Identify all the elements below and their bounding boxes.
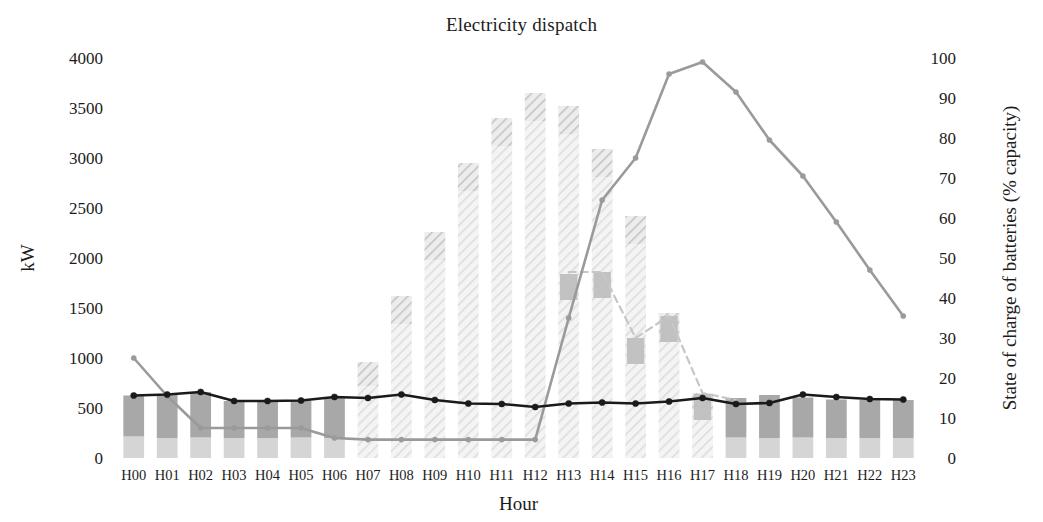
pv-generation-bar-cap bbox=[592, 149, 613, 177]
state-of-charge-point bbox=[901, 313, 906, 318]
bottom-axis-tick-label: H11 bbox=[490, 467, 514, 483]
bottom-axis-tick-label: H18 bbox=[723, 467, 748, 483]
bottom-axis-tick-label: H02 bbox=[188, 467, 213, 483]
electricity-demand-point bbox=[465, 400, 471, 406]
dispatchable-generation-bar-segment bbox=[257, 401, 278, 438]
right-axis-tick-label: 20 bbox=[939, 369, 956, 388]
electricity-demand-point bbox=[131, 392, 137, 398]
bottom-axis-tick-label: H06 bbox=[322, 467, 347, 483]
dispatchable-generation-bar-segment bbox=[859, 400, 880, 438]
grid-import-bar-segment bbox=[257, 438, 278, 458]
bottom-axis-tick-label: H05 bbox=[289, 467, 314, 483]
left-axis-tick-label: 1500 bbox=[69, 299, 103, 318]
right-axis-tick-label: 70 bbox=[939, 169, 956, 188]
dispatchable-generation-bar-segment bbox=[224, 401, 245, 438]
pv-generation-bar bbox=[491, 146, 512, 458]
grid-import-bar-segment bbox=[859, 438, 880, 458]
bottom-axis-tick-label: H23 bbox=[891, 467, 916, 483]
electricity-demand-point bbox=[900, 396, 906, 402]
electricity-demand-point bbox=[867, 396, 873, 402]
pv-generation-bar bbox=[424, 260, 445, 458]
electricity-demand-point bbox=[666, 398, 672, 404]
pv-generation-bar-cap bbox=[358, 362, 379, 386]
electricity-demand-point bbox=[198, 389, 204, 395]
left-axis-tick-label: 500 bbox=[78, 399, 104, 418]
bottom-axis-tick-label: H22 bbox=[857, 467, 882, 483]
electricity-demand-point bbox=[398, 391, 404, 397]
state-of-charge-point bbox=[566, 315, 571, 320]
dispatchable-generation-bar-segment bbox=[893, 400, 914, 438]
electricity-demand-point bbox=[432, 397, 438, 403]
bottom-axis-tick-label: H21 bbox=[824, 467, 849, 483]
left-axis-tick-label: 3000 bbox=[69, 149, 103, 168]
left-axis-tick-label: 2500 bbox=[69, 199, 103, 218]
state-of-charge-point bbox=[365, 437, 370, 442]
pv-generation-bar-cap bbox=[625, 216, 646, 244]
bottom-axis-tick-label: H10 bbox=[456, 467, 481, 483]
state-of-charge-point bbox=[666, 71, 671, 76]
pv-generation-bar-cap bbox=[424, 232, 445, 260]
pv-generation-bar-cap bbox=[558, 106, 579, 134]
grid-import-bar-segment bbox=[793, 438, 814, 459]
grid-import-bar-segment bbox=[893, 438, 914, 458]
left-axis-tick-label: 4000 bbox=[69, 49, 103, 68]
state-of-charge-line bbox=[131, 59, 906, 442]
electricity-dispatch-chart: 05001000150020002500300035004000 0102030… bbox=[0, 0, 1043, 522]
electricity-demand-point bbox=[833, 394, 839, 400]
electricity-demand-point bbox=[231, 398, 237, 404]
state-of-charge-point bbox=[466, 437, 471, 442]
bottom-axis-tick-label: H15 bbox=[623, 467, 648, 483]
state-of-charge-point bbox=[432, 437, 437, 442]
dispatchable-generation-bar-segment bbox=[324, 397, 345, 438]
state-of-charge-point bbox=[332, 435, 337, 440]
state-of-charge-path bbox=[134, 62, 904, 440]
grid-import-bar-segment bbox=[291, 438, 312, 459]
pv-generation-bar-cap bbox=[391, 296, 412, 324]
bars-layer bbox=[123, 93, 913, 458]
state-of-charge-point bbox=[767, 137, 772, 142]
grid-import-bar-segment bbox=[224, 438, 245, 458]
pv-generation-bar bbox=[592, 177, 613, 458]
pv-generation-bar-cap bbox=[458, 163, 479, 191]
state-of-charge-point bbox=[867, 267, 872, 272]
dispatchable-generation-bar-segment bbox=[123, 396, 144, 437]
state-of-charge-point bbox=[198, 425, 203, 430]
electricity-demand-line bbox=[131, 389, 907, 410]
grid-import-bar-segment bbox=[324, 438, 345, 458]
left-axis-tick-label: 1000 bbox=[69, 349, 103, 368]
bottom-axis-tick-label: H04 bbox=[255, 467, 281, 483]
state-of-charge-point bbox=[633, 155, 638, 160]
grid-import-bar-segment bbox=[190, 438, 211, 459]
grid-import-bar-segment bbox=[157, 438, 178, 458]
grid-import-bar-segment bbox=[759, 438, 780, 458]
bottom-axis-tick-label: H00 bbox=[121, 467, 146, 483]
bottom-axis-title: Hour bbox=[499, 493, 539, 514]
bottom-axis-tick-label: H20 bbox=[790, 467, 815, 483]
dispatchable-generation-bar-segment bbox=[291, 401, 312, 438]
right-axis-tick-label: 60 bbox=[939, 209, 956, 228]
electricity-demand-point bbox=[800, 391, 806, 397]
electricity-demand-point bbox=[331, 394, 337, 400]
electricity-demand-point bbox=[264, 398, 270, 404]
left-axis-tick-label: 2000 bbox=[69, 249, 103, 268]
state-of-charge-point bbox=[399, 437, 404, 442]
grid-import-bar-segment bbox=[826, 438, 847, 458]
battery-charge-bar-marker bbox=[627, 338, 644, 364]
right-axis-tick-label: 100 bbox=[931, 49, 957, 68]
bottom-axis-tick-label: H13 bbox=[556, 467, 581, 483]
bottom-axis-tick-label: H01 bbox=[155, 467, 180, 483]
electricity-demand-point bbox=[599, 399, 605, 405]
pv-generation-bar bbox=[458, 191, 479, 458]
electricity-demand-point bbox=[532, 404, 538, 410]
right-axis-tick-label: 10 bbox=[939, 409, 956, 428]
electricity-demand-point bbox=[699, 395, 705, 401]
electricity-demand-point bbox=[499, 401, 505, 407]
left-axis-ticks: 05001000150020002500300035004000 bbox=[69, 49, 103, 468]
bottom-axis-tick-label: H17 bbox=[690, 467, 715, 483]
state-of-charge-point bbox=[533, 437, 538, 442]
electricity-demand-point bbox=[298, 397, 304, 403]
state-of-charge-point bbox=[131, 355, 136, 360]
state-of-charge-point bbox=[499, 437, 504, 442]
grid-import-bar-segment bbox=[726, 438, 747, 459]
right-axis-tick-label: 80 bbox=[939, 129, 956, 148]
